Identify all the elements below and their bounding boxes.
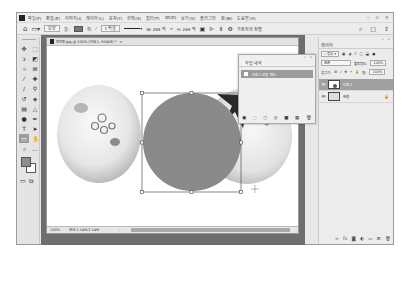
filter-toggle-icon[interactable]: ● xyxy=(372,52,375,56)
filter-smart-icon[interactable]: ⬓ xyxy=(366,52,369,56)
snapshot-icon[interactable]: ● xyxy=(242,115,246,120)
align-edges-checkbox[interactable]: 가장자리 정렬 xyxy=(237,26,262,32)
circle-icon[interactable]: ○ xyxy=(263,115,267,120)
adjustment-layer-icon[interactable]: ◐ xyxy=(360,236,364,241)
foreground-color-swatch[interactable] xyxy=(21,157,31,167)
blur-tool-icon[interactable]: △ xyxy=(30,104,40,113)
marquee-tool-icon[interactable]: ⬚ xyxy=(30,44,40,53)
ellipse-shape[interactable] xyxy=(143,93,241,191)
collapse-icon[interactable]: « xyxy=(304,55,306,60)
path-operations-icon[interactable]: ▣ xyxy=(200,25,206,32)
object-select-tool-icon[interactable]: ◩ xyxy=(30,54,40,63)
lock-position-icon[interactable]: ✥ xyxy=(344,70,347,74)
stroke-type-select[interactable] xyxy=(124,28,140,29)
filter-pixel-icon[interactable]: ▣ xyxy=(342,52,345,56)
path-select-tool-icon[interactable]: ➤ xyxy=(30,124,40,133)
document-tab[interactable]: 토마토.jpg @ 100% (타원 1, RGB/8) * × xyxy=(47,38,298,46)
menu-help[interactable]: 도움말(H) xyxy=(237,15,255,21)
document-close-icon[interactable]: × xyxy=(119,38,122,46)
panel-close-icon[interactable]: × xyxy=(387,37,390,42)
panel-close-icon[interactable]: × xyxy=(309,55,312,60)
close-button[interactable]: × xyxy=(385,14,389,20)
ellipse-tool-icon[interactable]: ▭ xyxy=(19,134,29,143)
filter-shape-icon[interactable]: ▢ xyxy=(360,52,363,56)
filter-adjust-icon[interactable]: ◑ xyxy=(348,52,351,56)
frame-tool-icon[interactable]: ⊠ xyxy=(30,64,40,73)
stroke-width-field[interactable]: 1 픽셀 xyxy=(101,25,121,32)
visibility-eye-icon[interactable]: 👁 xyxy=(319,94,328,99)
filter-type-icon[interactable]: T xyxy=(354,52,356,56)
stamp-tool-icon[interactable]: ⚲ xyxy=(30,84,40,93)
maximize-button[interactable]: ▫ xyxy=(375,14,378,20)
status-arrow-icon[interactable]: › xyxy=(119,227,129,234)
settings-gear-icon[interactable]: ⚙ xyxy=(227,25,232,32)
shape-mode-select[interactable]: 모양 xyxy=(44,25,60,32)
frame-icon[interactable]: ▢ xyxy=(370,25,376,33)
crop-tool-icon[interactable]: ⌗ xyxy=(19,64,29,73)
menu-type[interactable]: 문자(Y) xyxy=(109,15,123,21)
blend-mode-select[interactable]: 표준 xyxy=(321,60,351,66)
camera-icon[interactable]: ■ xyxy=(284,115,288,120)
lock-transparent-icon[interactable]: ⊞ xyxy=(334,70,337,74)
stroke-swatch-icon[interactable]: ⁄ xyxy=(96,26,97,31)
new-layer-icon[interactable]: ⊞ xyxy=(377,236,381,241)
menu-filter[interactable]: 필터(T) xyxy=(146,15,160,21)
eyedropper-tool-icon[interactable]: ⁄ xyxy=(19,74,29,83)
fill-swatch[interactable] xyxy=(74,26,83,32)
eraser-tool-icon[interactable]: ◈ xyxy=(30,94,40,103)
move-tool-icon[interactable]: ✥ xyxy=(19,44,29,53)
visibility-eye-icon[interactable]: 👁 xyxy=(319,82,328,87)
delete-layer-icon[interactable]: 🗑 xyxy=(385,236,391,241)
hand-tool-icon[interactable]: ✋ xyxy=(30,134,40,143)
gradient-tool-icon[interactable]: ▤ xyxy=(19,104,29,113)
h-field[interactable]: H: 269 픽 xyxy=(177,26,196,32)
opacity-field[interactable]: 100% xyxy=(370,60,386,66)
brush-tool-icon[interactable]: ∕ xyxy=(19,84,29,93)
new-doc-from-state-icon[interactable]: ◌ xyxy=(253,115,257,120)
lock-artboard-icon[interactable]: ⌗ xyxy=(350,70,352,74)
link-icon[interactable]: ∞ xyxy=(170,26,173,31)
lock-all-icon[interactable]: 🔒 xyxy=(355,70,359,74)
horizontal-scrollbar[interactable] xyxy=(131,228,290,232)
add-mask-icon[interactable]: ◙ xyxy=(352,236,356,241)
menu-view[interactable]: 보기(V) xyxy=(181,15,195,21)
ellipse-tool-preset-icon[interactable]: ▭▾ xyxy=(31,25,40,32)
filter-kind-select[interactable]: ⌕ 종류 ▾ xyxy=(321,51,339,57)
lasso-tool-icon[interactable]: ↄ xyxy=(19,54,29,63)
type-tool-icon[interactable]: T xyxy=(19,124,29,133)
layer-row-ellipse[interactable]: 👁 타원 1 xyxy=(319,79,393,91)
new-snapshot-icon[interactable]: ▦ xyxy=(295,115,299,120)
menu-layer[interactable]: 레이어(L) xyxy=(86,15,103,21)
fill-field[interactable]: 100% xyxy=(369,69,385,75)
screen-mode-icon[interactable]: ⧉ xyxy=(29,177,33,185)
zoom-tool-icon[interactable]: ⌕ xyxy=(19,144,29,153)
share-icon[interactable]: ⇪ xyxy=(384,25,389,33)
menu-image[interactable]: 이미지(I) xyxy=(65,15,81,21)
minimize-button[interactable]: – xyxy=(367,14,370,20)
menu-3d[interactable]: 3D(D) xyxy=(165,15,177,20)
search-icon[interactable]: ⌕ xyxy=(359,25,362,33)
path-arrange-icon[interactable]: ⇟ xyxy=(218,25,223,32)
new-group-icon[interactable]: ▭ xyxy=(368,236,372,241)
healing-tool-icon[interactable]: ✚ xyxy=(30,74,40,83)
history-tab[interactable]: 작업 내역 xyxy=(242,61,265,66)
more-tools-icon[interactable]: … xyxy=(30,144,40,153)
layers-tab[interactable]: 레이어 xyxy=(321,43,333,48)
link-layers-icon[interactable]: ∞ xyxy=(335,236,339,241)
lock-paint-icon[interactable]: ∕ xyxy=(340,70,341,74)
history-item[interactable]: 타원 1 모양 패스 xyxy=(241,70,313,78)
fx-icon[interactable]: fx xyxy=(343,236,347,241)
collapse-icon[interactable]: « xyxy=(382,37,384,42)
home-icon[interactable]: ⌂ xyxy=(23,25,27,33)
toolbox-grip[interactable] xyxy=(22,39,36,41)
zoom-level[interactable]: 100% xyxy=(47,227,69,234)
trash-icon[interactable]: 🗑 xyxy=(306,115,312,120)
adjust-icon[interactable]: ◎ xyxy=(274,115,278,120)
dodge-tool-icon[interactable]: ● xyxy=(19,114,29,123)
w-field[interactable]: W: 269 픽 xyxy=(146,26,165,32)
quick-mask-icon[interactable]: ▭ xyxy=(20,177,26,185)
path-alignment-icon[interactable]: ⊫ xyxy=(209,25,214,32)
menu-window[interactable]: 창(W) xyxy=(221,15,232,21)
menu-edit[interactable]: 편집(E) xyxy=(46,15,60,21)
document-info[interactable]: 문서:1.14M/1.14M xyxy=(69,227,119,234)
